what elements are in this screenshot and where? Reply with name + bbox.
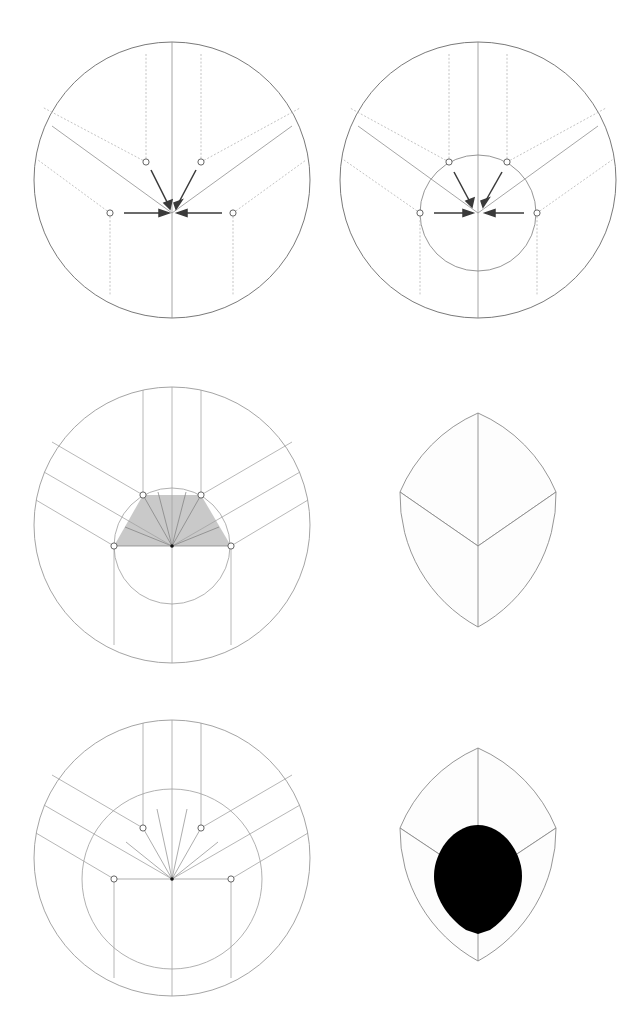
panel-3-svg [0, 340, 320, 680]
marker-right [228, 543, 234, 549]
marker-center [170, 544, 174, 548]
marker-upper-left [143, 159, 149, 165]
panel-middle-right [320, 340, 641, 680]
spoke-lines [52, 42, 292, 318]
dotted-diag-lower-left [344, 160, 420, 213]
marker-center [170, 877, 174, 881]
dotted-diag-upper-left [44, 108, 146, 162]
spoke-upper-right [172, 126, 292, 213]
panel-top-right [320, 0, 641, 340]
marker-right [230, 210, 236, 216]
panel-1-svg [0, 0, 320, 340]
point-markers [107, 159, 236, 216]
dotted-diag-upper-left [350, 108, 449, 162]
panel-bottom-left [0, 680, 320, 1017]
panel-4-svg [320, 340, 641, 680]
arrow-from-left [124, 210, 169, 217]
marker-upper-right [198, 825, 204, 831]
arrow-from-upper-right [481, 172, 502, 207]
panel-middle-left [0, 340, 320, 680]
marker-upper-left [140, 825, 146, 831]
marker-left [107, 210, 113, 216]
dotted-diag-lower-right [537, 160, 612, 213]
spoke-upper-left [52, 126, 172, 213]
arrow-from-right [177, 210, 222, 217]
arrow-from-upper-left [151, 170, 172, 209]
arrow-from-upper-left [454, 172, 474, 207]
marker-left [111, 543, 117, 549]
marker-upper-left [446, 159, 452, 165]
panel-6-svg [320, 680, 641, 1017]
dotted-diag-upper-right [507, 108, 606, 162]
converging-arrows [124, 170, 222, 217]
spoke-lines [358, 42, 598, 318]
dotted-diag-upper-right [201, 108, 300, 162]
marker-right [534, 210, 540, 216]
arrow-from-right [485, 210, 524, 217]
shaded-region [114, 495, 231, 546]
spoke-upper-right [478, 126, 598, 213]
marker-upper-right [504, 159, 510, 165]
fan-lines [114, 809, 231, 879]
outer-construction-lines [36, 720, 308, 996]
arrow-from-left [434, 210, 473, 217]
marker-right [228, 876, 234, 882]
marker-upper-left [140, 492, 146, 498]
figure-root [0, 0, 641, 1017]
marker-left [111, 876, 117, 882]
spoke-upper-left [358, 126, 478, 213]
reuleaux-shape [400, 413, 556, 627]
panel-5-svg [0, 680, 320, 1017]
panel-top-left [0, 0, 320, 340]
marker-left [417, 210, 423, 216]
panel-2-svg [320, 0, 641, 340]
dotted-diag-lower-right [233, 160, 306, 213]
point-markers [417, 159, 540, 216]
marker-upper-right [198, 492, 204, 498]
outer-construction-lines [36, 387, 308, 663]
converging-arrows [434, 172, 524, 217]
marker-upper-right [198, 159, 204, 165]
dotted-diag-lower-left [38, 160, 110, 213]
panel-bottom-right [320, 680, 641, 1017]
